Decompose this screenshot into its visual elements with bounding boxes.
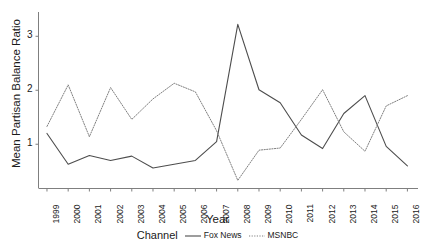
axis-lines bbox=[39, 12, 419, 189]
data-series-group bbox=[47, 24, 407, 180]
legend-title: Channel bbox=[137, 229, 178, 241]
chart-legend: ChannelFox NewsMSNBC bbox=[0, 229, 435, 241]
legend-key-fox-news bbox=[185, 230, 201, 241]
chart-figure: 123 199920002001200220032004200520062007… bbox=[0, 0, 435, 245]
series-line-fox-news bbox=[47, 24, 407, 168]
legend-label: Fox News bbox=[204, 230, 242, 240]
legend-key-msnbc bbox=[249, 230, 265, 241]
y-axis-title: Mean Partisan Balance Ratio bbox=[10, 19, 22, 168]
x-axis-title: Year bbox=[0, 213, 435, 225]
legend-label: MSNBC bbox=[268, 230, 299, 240]
series-line-msnbc bbox=[47, 83, 407, 180]
